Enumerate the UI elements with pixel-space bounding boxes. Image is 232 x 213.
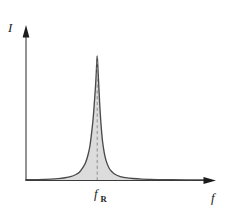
x-axis-arrowhead-icon [204, 177, 217, 184]
resonance-curve-fill [26, 56, 204, 181]
y-axis-label: I [7, 20, 13, 35]
resonance-curve-figure: I f f R [0, 0, 232, 213]
resonance-curve-line [26, 56, 204, 180]
x-axis-label: f [211, 190, 217, 205]
resonance-plot-svg: I f f R [0, 0, 232, 213]
resonance-tick-label-base: f [94, 186, 100, 201]
resonance-tick-label-subscript: R [101, 194, 108, 204]
y-axis-arrowhead-icon [23, 25, 30, 38]
